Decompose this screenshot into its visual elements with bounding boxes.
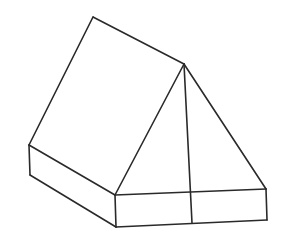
front-right-slope-line: [184, 64, 266, 189]
tent-drawing-canvas: [0, 0, 282, 238]
roof-bottom-edge-line: [29, 145, 115, 195]
base-side-bottom-line: [30, 175, 116, 227]
front-left-slope-line: [115, 64, 184, 195]
tent-line-drawing: [0, 0, 282, 238]
center-pole-line: [184, 64, 192, 223]
roof-left-eave-line: [29, 17, 93, 145]
base-right-vertical-line: [266, 189, 267, 220]
roof-ridge-line: [93, 17, 184, 64]
base-front-left-vertical-line: [115, 195, 116, 227]
base-left-vertical-line: [29, 145, 30, 175]
